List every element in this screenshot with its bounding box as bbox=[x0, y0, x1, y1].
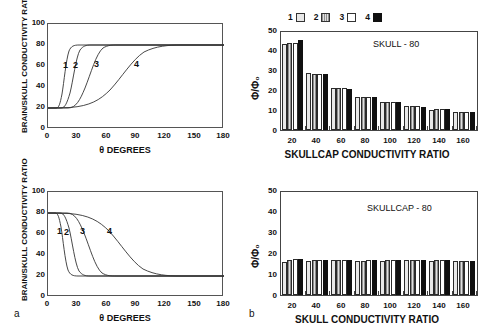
x-axis-title-top-left-text: θ DEGREES bbox=[99, 145, 150, 155]
bar bbox=[342, 88, 347, 130]
bar bbox=[415, 260, 420, 295]
bar bbox=[287, 260, 292, 295]
bar bbox=[323, 260, 328, 295]
x-axis-title-top-right-text: SKULLCAP CONDUCTIVITY RATIO bbox=[284, 149, 449, 160]
x-tick-bottom-left-180: 180 bbox=[208, 299, 238, 308]
bar bbox=[282, 44, 287, 130]
bar-group bbox=[404, 32, 426, 130]
bar bbox=[464, 261, 469, 295]
x-tick-bottom-left-90: 90 bbox=[120, 299, 150, 308]
bar bbox=[404, 106, 409, 130]
bar bbox=[366, 260, 371, 295]
bar bbox=[331, 88, 336, 130]
panel-bottom-right-bar-chart: Φ/Φ₀ 50 40 30 20 10 0 SKULLCAP - 80 20 4… bbox=[242, 168, 484, 336]
legend-item-4: 4 bbox=[365, 12, 382, 22]
bar bbox=[396, 102, 401, 130]
curve-3-bottom-left bbox=[48, 213, 224, 276]
y-tick-top-right-50: 50 bbox=[255, 26, 277, 35]
bar bbox=[410, 260, 415, 295]
x-axis-title-bottom-left: θ DEGREES bbox=[20, 313, 230, 323]
curve-1-top-left bbox=[48, 45, 224, 108]
legend-swatch-1-icon bbox=[296, 13, 305, 22]
bar bbox=[298, 259, 303, 295]
y-tick-bottom-right-20: 20 bbox=[255, 249, 277, 258]
bar bbox=[429, 261, 434, 295]
legend-swatch-4-icon bbox=[373, 13, 382, 22]
y-tick-bottom-left-40: 40 bbox=[23, 249, 45, 258]
panel-bottom-left-line-chart: BRAIN/SKULL CONDUCTIVITY RATIO 100 80 60… bbox=[0, 168, 242, 336]
bar-group bbox=[306, 192, 328, 295]
bar bbox=[298, 40, 303, 130]
x-tick-top-left-0: 0 bbox=[32, 131, 62, 140]
panel-top-left-line-chart: BRAIN/SKULL CONDUCTIVITY RATIO 100 80 60… bbox=[0, 0, 242, 168]
bar bbox=[355, 97, 360, 130]
bar bbox=[391, 102, 396, 130]
curve-4-bottom-left bbox=[48, 213, 224, 276]
curve-label-2-bottom-left: 2 bbox=[64, 227, 69, 237]
x-axis-title-bottom-right-text: SKULL CONDUCTIVITY RATIO bbox=[295, 314, 439, 325]
curve-label-3-bottom-left: 3 bbox=[80, 226, 85, 236]
bar-group bbox=[306, 32, 328, 130]
y-tick-top-left-60: 60 bbox=[23, 60, 45, 69]
y-tick-top-right-0: 0 bbox=[255, 126, 277, 135]
bar bbox=[317, 260, 322, 295]
x-axis-title-bottom-right: SKULL CONDUCTIVITY RATIO bbox=[252, 314, 482, 325]
plot-area-top-right: SKULL - 80 bbox=[280, 31, 478, 131]
y-tick-bottom-left-80: 80 bbox=[23, 207, 45, 216]
y-tick-bottom-left-20: 20 bbox=[23, 270, 45, 279]
y-tick-bottom-right-0: 0 bbox=[255, 291, 277, 300]
bar bbox=[385, 260, 390, 295]
x-tick-top-left-60: 60 bbox=[91, 131, 121, 140]
y-tick-top-left-40: 40 bbox=[23, 81, 45, 90]
x-axis-title-top-right: SKULLCAP CONDUCTIVITY RATIO bbox=[252, 149, 482, 160]
plot-area-bottom-right: SKULLCAP - 80 bbox=[280, 191, 478, 296]
curve-3-top-left bbox=[48, 45, 224, 108]
bar-group bbox=[355, 192, 377, 295]
curve-label-4-bottom-left: 4 bbox=[107, 226, 112, 236]
bar bbox=[380, 102, 385, 130]
x-tick-bottom-left-60: 60 bbox=[91, 299, 121, 308]
bar bbox=[306, 261, 311, 295]
plot-area-top-left bbox=[47, 23, 223, 128]
bar bbox=[464, 112, 469, 130]
bar bbox=[336, 260, 341, 295]
x-tick-mark bbox=[476, 126, 477, 130]
curve-label-2-top-left: 2 bbox=[73, 60, 78, 70]
y-tick-top-right-40: 40 bbox=[255, 46, 277, 55]
bar-group bbox=[282, 32, 304, 130]
x-tick-top-left-120: 120 bbox=[149, 131, 179, 140]
legend-label-1: 1 bbox=[288, 12, 293, 22]
bar-group bbox=[404, 192, 426, 295]
bar-group bbox=[282, 192, 304, 295]
bar-group bbox=[429, 192, 451, 295]
bar bbox=[396, 260, 401, 295]
bar bbox=[347, 89, 352, 130]
bar bbox=[361, 97, 366, 130]
bar-group bbox=[380, 32, 402, 130]
curve-label-1-bottom-left: 1 bbox=[57, 226, 62, 236]
panel-top-right-bar-chart: 1 2 3 4 Φ/Φ₀ 50 40 30 20 10 0 SKULL - 80… bbox=[242, 0, 484, 168]
legend-label-3: 3 bbox=[339, 12, 344, 22]
x-tick-bottom-left-120: 120 bbox=[149, 299, 179, 308]
x-tick-bottom-right-160: 160 bbox=[448, 301, 478, 310]
bar-group bbox=[331, 32, 353, 130]
bar bbox=[306, 73, 311, 130]
bar bbox=[429, 110, 434, 130]
curve-2-top-left bbox=[48, 45, 224, 108]
x-tick-bottom-left-0: 0 bbox=[32, 299, 62, 308]
x-axis-title-bottom-left-text: θ DEGREES bbox=[99, 313, 150, 323]
x-tick-top-left-150: 150 bbox=[179, 131, 209, 140]
curve-1-bottom-left bbox=[48, 213, 224, 276]
bar bbox=[415, 106, 420, 130]
panel-letter-a: a bbox=[14, 308, 20, 319]
plot-area-bottom-left bbox=[47, 191, 223, 296]
bar bbox=[453, 112, 458, 130]
y-tick-bottom-right-10: 10 bbox=[255, 270, 277, 279]
bar bbox=[470, 261, 475, 295]
bar bbox=[312, 260, 317, 295]
panel-letter-b: b bbox=[249, 308, 255, 319]
x-tick-top-left-90: 90 bbox=[120, 131, 150, 140]
y-tick-bottom-right-50: 50 bbox=[255, 186, 277, 195]
bar bbox=[372, 260, 377, 295]
x-tick-bottom-left-30: 30 bbox=[61, 299, 91, 308]
